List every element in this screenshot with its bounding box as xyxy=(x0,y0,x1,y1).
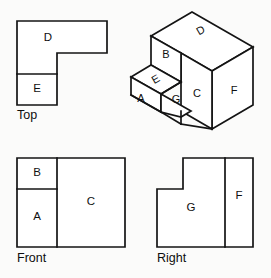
right-view-region-f-label: F xyxy=(235,189,242,201)
iso-label-g: G xyxy=(172,93,181,105)
front-view-region-a-label: A xyxy=(33,210,41,222)
top-view-region-d-label: D xyxy=(44,31,52,43)
top-view-region-e-label: E xyxy=(33,82,41,94)
technical-drawing-figure: D E Top B A C Front G F Right xyxy=(0,0,271,278)
iso-label-c: C xyxy=(193,87,201,99)
right-view-outline xyxy=(157,158,253,247)
view-front: B A C Front xyxy=(17,158,125,265)
right-view-title: Right xyxy=(157,251,187,265)
view-isometric: D F C B E A G xyxy=(131,12,253,129)
right-view-region-g-label: G xyxy=(187,201,196,213)
top-view-title: Top xyxy=(17,108,37,122)
iso-label-b: B xyxy=(162,48,169,60)
view-top: D E Top xyxy=(17,21,107,122)
view-right: G F Right xyxy=(157,158,253,265)
front-view-region-c-label: C xyxy=(87,195,95,207)
front-view-title: Front xyxy=(17,251,47,265)
iso-label-f: F xyxy=(231,84,238,96)
drawing-canvas: D E Top B A C Front G F Right xyxy=(0,0,271,278)
top-view-outline xyxy=(17,21,107,105)
front-view-region-b-label: B xyxy=(33,166,41,178)
iso-label-a: A xyxy=(137,92,145,104)
